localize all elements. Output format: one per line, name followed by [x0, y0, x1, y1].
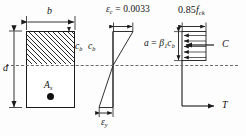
- label-compression-force: C: [222, 39, 229, 49]
- neutral-axis-line: [6, 65, 238, 66]
- label-stress-coefficient: 0.85: [178, 4, 196, 15]
- label-epsilon-c-equals: =: [113, 4, 123, 14]
- label-epsilon-y-sub: y: [105, 121, 108, 128]
- label-as: As: [44, 81, 52, 91]
- label-b: b: [47, 6, 52, 16]
- compression-zone-hatch: [27, 32, 74, 64]
- label-stress-sub: ck: [199, 9, 205, 16]
- label-cb-strain-sub: b: [92, 45, 95, 52]
- label-a-c-sub: b: [172, 42, 175, 49]
- label-cb-section-sub: b: [79, 45, 82, 52]
- dimension-b: [27, 16, 76, 30]
- label-epsilon-c: εc = 0.0033: [106, 5, 150, 15]
- label-d: d: [3, 63, 8, 73]
- reinforcement-bar-icon: [47, 93, 54, 100]
- balanced-strain-condition-figure: b d cb As εc = 0.0033 cb εy 0.85fck a = …: [0, 0, 246, 136]
- label-epsilon-c-value: 0.0033: [123, 4, 150, 14]
- label-cb-strain: cb: [88, 42, 96, 52]
- equivalent-stress-block-shape: [182, 32, 214, 107]
- label-epsilon-y: εy: [101, 118, 108, 128]
- label-a-equals: =: [149, 38, 159, 48]
- dimension-stress-magnitude: [182, 23, 206, 32]
- label-cb-section: cb: [75, 42, 83, 52]
- label-a-depth: a = β1cb: [144, 39, 175, 49]
- label-as-sub: s: [50, 84, 53, 91]
- dimension-d: [9, 31, 22, 108]
- label-tension-force: T: [222, 100, 228, 110]
- dimension-epsilon-y: [99, 108, 113, 117]
- label-stress-magnitude: 0.85fck: [178, 5, 205, 16]
- strain-distribution-shape: [99, 32, 133, 108]
- dimension-epsilon-c: [114, 23, 133, 32]
